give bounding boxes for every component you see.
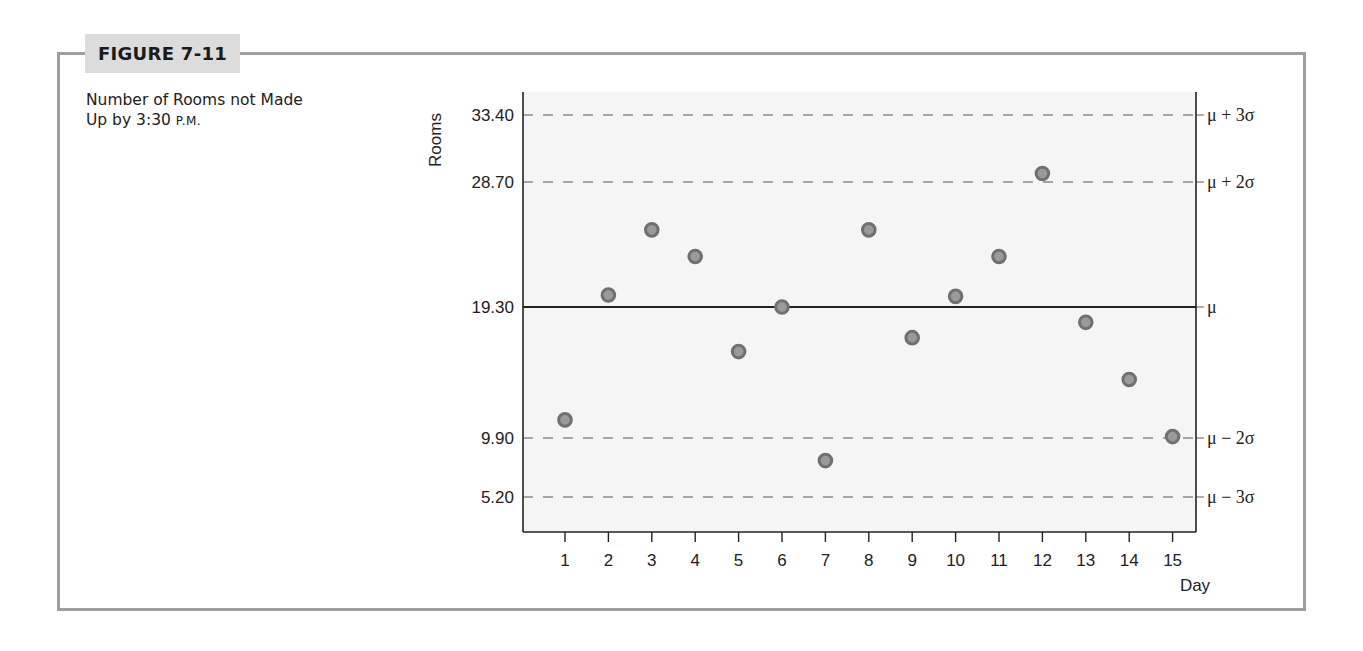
limit-label: μ + 2σ	[1207, 172, 1255, 192]
data-point	[1166, 430, 1179, 443]
y-tick-label: 9.90	[481, 429, 514, 448]
data-point	[559, 414, 572, 427]
data-point	[1080, 316, 1093, 329]
y-tick-labels: 33.4028.7019.309.905.20	[471, 106, 514, 507]
x-tick-label: 5	[734, 551, 743, 570]
data-point	[863, 224, 876, 237]
y-tick-label: 28.70	[471, 173, 514, 192]
x-tick-label: 11	[990, 551, 1008, 570]
data-point	[602, 289, 615, 302]
x-ticks: 123456789101112131415	[560, 532, 1182, 570]
data-point	[1123, 373, 1136, 386]
x-tick-label: 4	[690, 551, 699, 570]
control-chart: μ + 3σμ + 2σμμ − 2σμ − 3σ 33.4028.7019.3…	[0, 0, 1363, 651]
x-tick-label: 10	[946, 551, 965, 570]
data-point	[906, 331, 919, 344]
x-tick-label: 14	[1120, 551, 1139, 570]
data-point	[689, 250, 702, 263]
x-tick-label: 3	[647, 551, 656, 570]
x-tick-label: 8	[864, 551, 873, 570]
data-point	[993, 250, 1006, 263]
plot-area	[523, 92, 1196, 532]
y-tick-label: 19.30	[471, 298, 514, 317]
y-axis-title: Rooms	[426, 113, 445, 167]
limit-label: μ − 2σ	[1207, 428, 1255, 448]
x-axis-title: Day	[1180, 576, 1211, 595]
x-tick-label: 9	[907, 551, 916, 570]
data-point	[1036, 167, 1049, 180]
x-tick-label: 2	[604, 551, 613, 570]
x-tick-label: 13	[1076, 551, 1095, 570]
data-point	[732, 345, 745, 358]
y-tick-label: 5.20	[481, 488, 514, 507]
data-point	[776, 301, 789, 314]
x-tick-label: 15	[1163, 551, 1182, 570]
x-tick-label: 12	[1033, 551, 1052, 570]
data-point	[646, 224, 659, 237]
limit-label: μ − 3σ	[1207, 487, 1255, 507]
x-tick-label: 7	[821, 551, 830, 570]
limit-label: μ	[1207, 297, 1217, 317]
x-tick-label: 6	[777, 551, 786, 570]
limit-label: μ + 3σ	[1207, 105, 1255, 125]
y-tick-label: 33.40	[471, 106, 514, 125]
x-tick-label: 1	[560, 551, 569, 570]
data-point	[949, 290, 962, 303]
data-point	[819, 454, 832, 467]
